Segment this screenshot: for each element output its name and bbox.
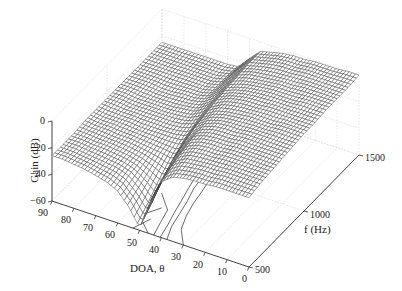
x-tick-80: 80 [61, 215, 71, 225]
x-tick-90: 90 [38, 208, 48, 218]
x-tick-20: 20 [193, 260, 203, 270]
x-tick-10: 10 [217, 267, 227, 277]
y-tick-1000: 1000 [310, 210, 330, 220]
y-tick-1500: 1500 [365, 153, 385, 163]
y-tick-500: 500 [255, 265, 270, 275]
x-tick-60: 60 [105, 230, 115, 240]
surface-plot [0, 0, 402, 291]
x-tick-40: 40 [149, 245, 159, 255]
z-tick-minus60: −60 [30, 196, 46, 206]
x-tick-50: 50 [127, 238, 137, 248]
x-tick-30: 30 [171, 252, 181, 262]
z-axis-title: Gain (dB) [29, 131, 40, 191]
x-axis-title: DOA, θ [130, 263, 165, 274]
y-axis-title: f (Hz) [304, 224, 331, 235]
x-tick-0: 0 [242, 274, 247, 284]
z-tick-0: 0 [40, 116, 45, 126]
surface-mesh [52, 42, 359, 225]
x-tick-70: 70 [83, 223, 93, 233]
